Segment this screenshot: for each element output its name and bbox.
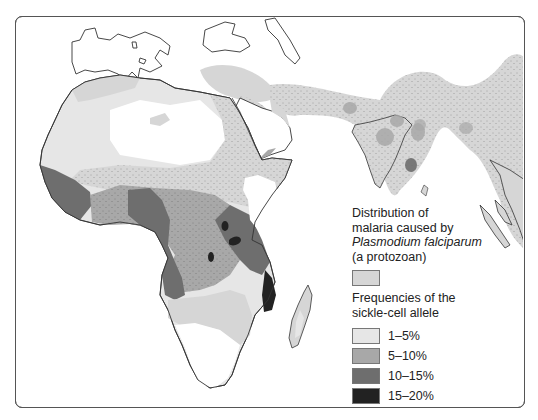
swatch-15-20 xyxy=(352,388,380,404)
swatch-10-15 xyxy=(352,368,380,384)
europe-outline xyxy=(72,18,300,80)
legend-item-5-10: 5–10% xyxy=(352,346,522,366)
legend-label: 5–10% xyxy=(388,349,427,363)
legend-malaria-line3: Plasmodium falciparum xyxy=(352,235,522,250)
swatch-1-5 xyxy=(352,328,380,344)
swatch-5-10 xyxy=(352,348,380,364)
malaria-swatch xyxy=(352,270,380,286)
legend-item-10-15: 10–15% xyxy=(352,366,522,386)
legend-label: 15–20% xyxy=(388,389,434,403)
legend-item-1-5: 1–5% xyxy=(352,326,522,346)
patch-15-20-a xyxy=(222,221,229,231)
legend-malaria-line1: Distribution of xyxy=(352,206,522,221)
legend-label: 10–15% xyxy=(388,369,434,383)
legend-frequency-title: Frequencies of the sickle-cell allele xyxy=(352,291,522,320)
legend: Distribution of malaria caused by Plasmo… xyxy=(352,206,522,406)
legend-malaria-line2: malaria caused by xyxy=(352,221,522,236)
legend-item-15-20: 15–20% xyxy=(352,386,522,406)
legend-species-name: Plasmodium falciparum xyxy=(352,235,482,249)
legend-label: 1–5% xyxy=(388,329,420,343)
legend-frequency-line2: sickle-cell allele xyxy=(352,306,522,321)
legend-malaria-title: Distribution of malaria caused by Plasmo… xyxy=(352,206,522,264)
legend-malaria-line4: (a protozoan) xyxy=(352,250,522,265)
legend-frequency-line1: Frequencies of the xyxy=(352,291,522,306)
